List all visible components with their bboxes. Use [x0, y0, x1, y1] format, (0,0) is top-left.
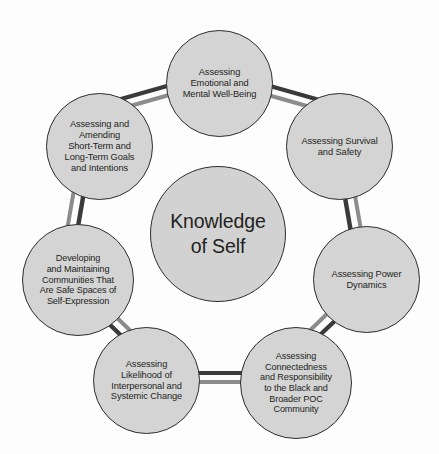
node-goals-intentions[interactable]: Assessing and Amending Short-Term and Lo… [46, 93, 153, 200]
node-emotional-wellbeing[interactable]: Assessing Emotional and Mental Well-Bein… [166, 30, 273, 137]
node-safe-spaces[interactable]: Developing and Maintaining Communities T… [22, 224, 134, 336]
connector-connectedness-to-likelihood [198, 373, 243, 382]
node-label-goals-intentions: Assessing and Amending Short-Term and Lo… [60, 119, 140, 174]
node-label-power-dynamics: Assessing Power Dynamics [327, 269, 407, 291]
node-likelihood-change[interactable]: Assessing Likelihood of Interpersonal an… [93, 327, 200, 434]
diagram-canvas: Knowledge of Self Assessing Emotional an… [0, 0, 439, 454]
node-label-survival-safety: Assessing Survival and Safety [296, 136, 382, 158]
node-survival-safety[interactable]: Assessing Survival and Safety [286, 93, 393, 200]
node-label-likelihood-change: Assessing Likelihood of Interpersonal an… [106, 359, 187, 403]
center-node-knowledge-of-self[interactable]: Knowledge of Self [150, 166, 286, 302]
node-label-safe-spaces: Developing and Maintaining Communities T… [35, 253, 122, 307]
node-power-dynamics[interactable]: Assessing Power Dynamics [313, 226, 420, 333]
center-node-label: Knowledge of Self [165, 209, 271, 258]
node-label-emotional-wellbeing: Assessing Emotional and Mental Well-Bein… [178, 67, 262, 100]
node-label-connectedness-responsibility: Assessing Connectedness and Responsibili… [255, 351, 337, 415]
node-connectedness-responsibility[interactable]: Assessing Connectedness and Responsibili… [240, 327, 352, 439]
